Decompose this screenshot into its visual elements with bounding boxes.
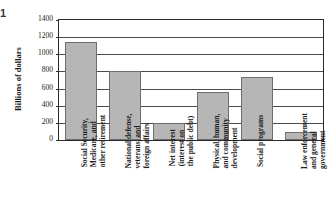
- x-axis-label-line: and community: [221, 114, 230, 169]
- x-axis-label: National defense,veterans, andforeign af…: [102, 141, 146, 214]
- x-axis-label-line: (interest on: [177, 116, 186, 166]
- y-axis-tick-labels: 0200400600800100012001400: [28, 19, 56, 139]
- x-axis-label: Social programs: [234, 141, 278, 214]
- x-axis-label-line: Law enforcement: [300, 113, 309, 169]
- y-tick-label: 400: [42, 101, 53, 109]
- y-tick-label: 0: [49, 135, 53, 143]
- x-axis-label-line: Social Security,: [80, 115, 89, 168]
- y-tick-label: 1000: [38, 49, 53, 57]
- x-axis-label-text: Law enforcementand generalgovernment: [300, 113, 328, 169]
- x-axis-label-line: Physical, human,: [212, 114, 221, 169]
- x-axis-label-line: Social programs: [256, 115, 265, 167]
- x-axis-label-line: Medicare, and: [89, 115, 98, 168]
- y-axis-title-container: Billions of dollars: [10, 19, 26, 139]
- chart-figure: 1 Billions of dollars 020040060080010001…: [0, 0, 334, 214]
- x-axis-label-line: Net interest: [168, 116, 177, 166]
- x-axis-label-text: Social programs: [256, 115, 265, 167]
- y-tick-label: 600: [42, 84, 53, 92]
- x-axis-label-line: veterans, and: [133, 114, 142, 169]
- x-axis-label: Social Security,Medicare, andother retir…: [58, 141, 102, 214]
- y-axis-title: Billions of dollars: [14, 47, 23, 111]
- x-axis-label: Net interest(interest onthe public debt): [146, 141, 190, 214]
- x-axis-label-line: National defense,: [124, 114, 133, 169]
- x-axis-label-line: and general: [309, 113, 318, 169]
- y-tick-label: 800: [42, 66, 53, 74]
- figure-number: 1: [0, 8, 6, 19]
- y-tick-label: 1200: [38, 32, 53, 40]
- y-tick-label: 1400: [38, 15, 53, 23]
- y-tick-label: 200: [42, 118, 53, 126]
- x-axis-label: Physical, human,and communitydevelopment: [190, 141, 234, 214]
- x-axis-label-line: government: [318, 113, 327, 169]
- x-axis-category-labels: Social Security,Medicare, andother retir…: [58, 141, 322, 214]
- x-axis-label: Law enforcementand generalgovernment: [278, 141, 322, 214]
